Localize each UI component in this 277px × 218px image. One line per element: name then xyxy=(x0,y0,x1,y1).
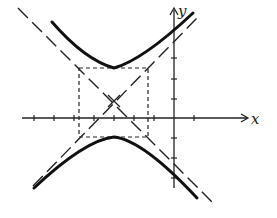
hyperbola-diagram: x y xyxy=(0,0,277,218)
x-axis-label: x xyxy=(251,110,260,128)
hyperbola-upper-branch xyxy=(52,13,193,68)
center-marker xyxy=(108,95,120,107)
y-axis-label: y xyxy=(177,2,187,20)
hyperbola-lower-branch xyxy=(34,137,197,198)
